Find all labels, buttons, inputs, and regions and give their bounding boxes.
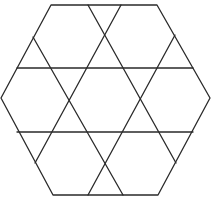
diagonal-line-2 (35, 5, 121, 163)
diagonal-line-1 (88, 5, 176, 163)
diagonal-line-4 (88, 35, 175, 195)
hexagon-diagram (0, 0, 213, 201)
diagonal-line-3 (33, 37, 123, 195)
